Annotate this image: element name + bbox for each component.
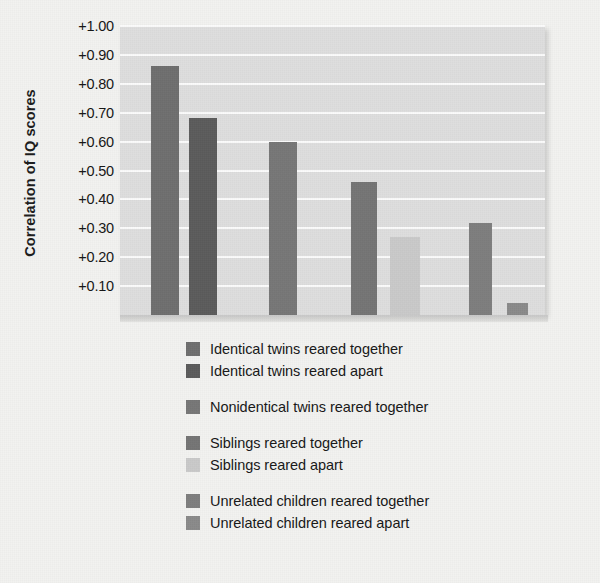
legend-item: Unrelated children reared together [186, 490, 546, 512]
legend-item: Identical twins reared together [186, 338, 546, 360]
plot-area [120, 26, 545, 315]
legend-swatch-unrelated-together [186, 494, 200, 508]
chart-baseline [120, 315, 548, 322]
gridline [120, 198, 545, 200]
legend-item-label: Siblings reared apart [210, 457, 343, 473]
legend-item-label: Unrelated children reared together [210, 493, 429, 509]
legend-item-label: Identical twins reared together [210, 341, 403, 357]
legend-group-3: Siblings reared togetherSiblings reared … [186, 432, 546, 476]
bar-1 [151, 66, 179, 315]
legend-swatch-unrelated-apart [186, 516, 200, 530]
gridline [120, 141, 545, 143]
legend-item-label: Siblings reared together [210, 435, 363, 451]
legend-swatch-identical-together [186, 342, 200, 356]
legend-group-2: Nonidentical twins reared together [186, 396, 546, 418]
chart-legend: Identical twins reared togetherIdentical… [186, 338, 546, 534]
y-axis-tick-label: +1.00 [78, 18, 114, 34]
y-axis-tick-label: +0.40 [78, 191, 114, 207]
legend-item: Identical twins reared apart [186, 360, 546, 382]
gridline [120, 83, 545, 85]
y-axis-tick-label: +0.90 [78, 47, 114, 63]
y-axis-tick-label: +0.20 [78, 249, 114, 265]
y-axis-title: Correlation of IQ scores [22, 28, 38, 318]
bar-3 [269, 142, 297, 315]
bar-7 [507, 303, 528, 315]
bar-2 [189, 118, 217, 315]
legend-group-4: Unrelated children reared togetherUnrela… [186, 490, 546, 534]
gridline [120, 112, 545, 114]
legend-swatch-siblings-apart [186, 458, 200, 472]
legend-swatch-siblings-together [186, 436, 200, 450]
y-axis-tick-label: +0.10 [78, 278, 114, 294]
gridline [120, 25, 545, 27]
iq-correlation-bar-chart: Correlation of IQ scores +1.00+0.90+0.80… [0, 0, 600, 583]
legend-item-label: Identical twins reared apart [210, 363, 383, 379]
y-axis-tick-label: +0.60 [78, 134, 114, 150]
gridline [120, 54, 545, 56]
legend-item: Nonidentical twins reared together [186, 396, 546, 418]
legend-item-label: Nonidentical twins reared together [210, 399, 428, 415]
y-axis-tick-label: +0.80 [78, 76, 114, 92]
legend-item: Siblings reared apart [186, 454, 546, 476]
gridline [120, 170, 545, 172]
legend-group-1: Identical twins reared togetherIdentical… [186, 338, 546, 382]
y-axis-tick-label: +0.70 [78, 105, 114, 121]
bar-6 [469, 223, 492, 315]
y-axis-tick-labels: +1.00+0.90+0.80+0.70+0.60+0.50+0.40+0.30… [52, 26, 114, 315]
bar-4 [351, 182, 377, 315]
legend-item-label: Unrelated children reared apart [210, 515, 409, 531]
y-axis-tick-label: +0.30 [78, 220, 114, 236]
legend-item: Unrelated children reared apart [186, 512, 546, 534]
legend-item: Siblings reared together [186, 432, 546, 454]
legend-swatch-nonidentical-together [186, 400, 200, 414]
y-axis-tick-label: +0.50 [78, 163, 114, 179]
bar-5 [390, 237, 420, 315]
legend-swatch-identical-apart [186, 364, 200, 378]
